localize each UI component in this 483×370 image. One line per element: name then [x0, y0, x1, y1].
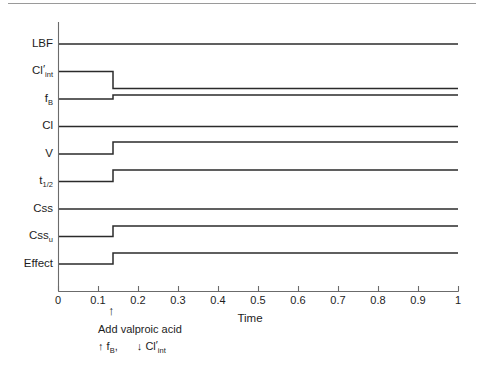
x-tick-label-0-7: 0.7 [330, 295, 345, 306]
series-line-v [59, 142, 458, 154]
annotation-clint-symbol: Cl′int [145, 340, 165, 352]
x-tick-label-0-3: 0.3 [170, 295, 185, 306]
series-line-t-half [59, 170, 458, 182]
up-arrow-icon: ↑ [98, 340, 104, 352]
annotation-add-valproic-acid: Add valproic acid [98, 324, 182, 335]
y-label-css: Css [0, 203, 53, 215]
x-tick-label-0: 0 [55, 295, 61, 306]
x-tick-label-0-8: 0.8 [370, 295, 385, 306]
x-tick-label-0-6: 0.6 [290, 295, 305, 306]
y-label-v: V [0, 148, 53, 160]
y-label-fb: fB [0, 93, 53, 105]
series-line-clint [59, 72, 458, 89]
x-axis-title: Time [237, 313, 262, 325]
annotation-parameter-changes: ↑ fB, ↓ Cl′int [98, 341, 166, 352]
y-label-cl: Cl [0, 120, 53, 132]
down-arrow-icon: ↓ [137, 340, 143, 352]
x-tick-label-1: 1 [455, 295, 461, 306]
x-tick-label-0-9: 0.9 [410, 295, 425, 306]
series-line-fb [59, 95, 458, 99]
y-label-cssu: Cssu [0, 230, 53, 242]
x-axis-ticks [59, 286, 459, 292]
series-line-cssu [59, 226, 458, 237]
y-label-lbf: LBF [0, 38, 53, 50]
event-marker-arrow-icon: ↑ [108, 304, 115, 317]
x-tick-label-0-2: 0.2 [130, 295, 145, 306]
x-tick-label-0-4: 0.4 [210, 295, 225, 306]
x-tick-label-0-1: 0.1 [90, 295, 105, 306]
x-tick-label-0-5: 0.5 [250, 295, 265, 306]
series-line-effect [59, 253, 458, 264]
annotation-fb-symbol: fB, [107, 340, 118, 352]
y-label-t-half: t1/2 [0, 175, 53, 187]
y-label-clint: Cl′int [0, 65, 53, 77]
y-label-effect: Effect [0, 258, 53, 270]
figure-container: LBF Cl′int fB Cl V t1/2 Css Cssu Effect … [0, 0, 483, 370]
